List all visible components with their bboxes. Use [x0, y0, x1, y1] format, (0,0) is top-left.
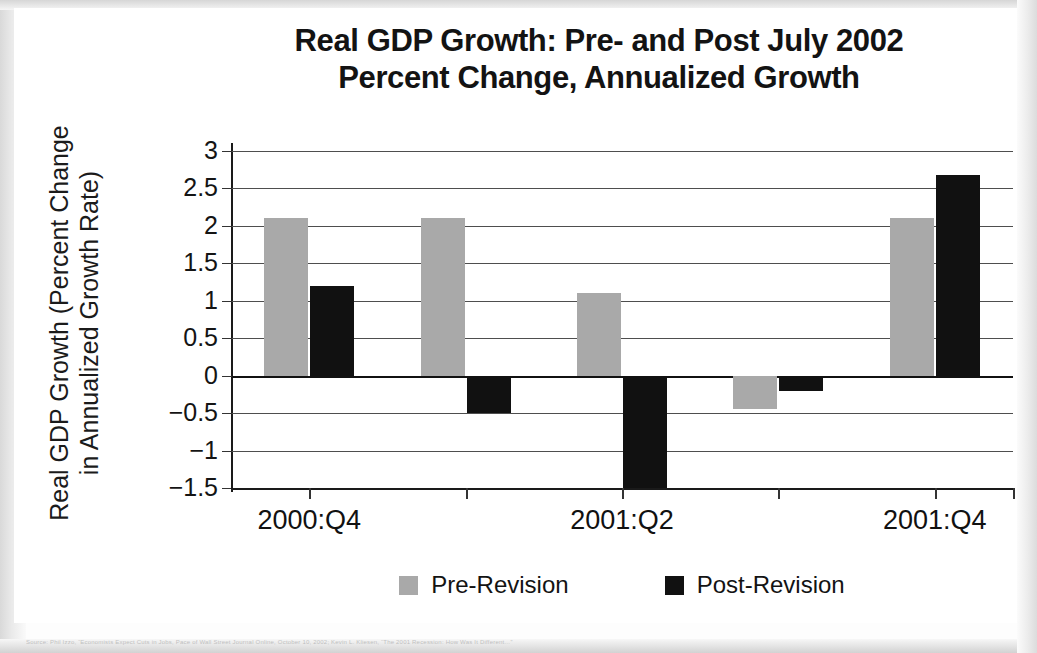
legend-item-post-revision: Post-Revision	[665, 571, 845, 599]
x-axis-tick-label-2000-Q4: 2000:Q4	[257, 505, 361, 536]
y-axis-tick-label: −1.5	[122, 473, 218, 502]
y-axis-tick	[222, 338, 232, 339]
x-axis-tick	[935, 488, 937, 499]
y-axis-label-line2: in Annualized Growth Rate)	[74, 113, 104, 533]
y-axis-tick	[222, 263, 232, 264]
y-axis-tick-label: 3	[122, 136, 218, 165]
x-axis-tick-label-2001-Q4: 2001:Q4	[883, 505, 987, 536]
y-axis-tick	[222, 188, 232, 189]
bar-pre-2001-Q3	[733, 376, 777, 410]
bar-post-2001-Q2	[623, 376, 667, 488]
legend-swatch-post-revision	[665, 576, 684, 595]
chart-legend: Pre-Revision Post-Revision	[231, 568, 1013, 602]
gdp-growth-bar-chart: Real GDP Growth: Pre- and Post July 2002…	[14, 8, 1022, 623]
y-axis-label: Real GDP Growth (Percent Change in Annua…	[44, 113, 104, 533]
x-axis-tick	[622, 488, 624, 499]
bar-post-2001-Q3	[779, 376, 823, 391]
legend-item-pre-revision: Pre-Revision	[399, 571, 568, 599]
bar-post-2001-Q1	[467, 376, 511, 413]
y-axis-tick-label: 0	[122, 361, 218, 390]
x-axis-end-tick	[1013, 488, 1015, 499]
bar-pre-2001-Q1	[421, 218, 465, 375]
y-axis-tick	[222, 451, 232, 452]
y-axis-tick-label: −0.5	[122, 398, 218, 427]
chart-title-line2: Percent Change, Annualized Growth	[184, 59, 1014, 96]
y-axis-tick-labels: 32.521.510.50−0.5−1−1.5	[122, 151, 218, 488]
chart-title-line1: Real GDP Growth: Pre- and Post July 2002	[295, 23, 904, 58]
legend-swatch-pre-revision	[399, 576, 418, 595]
x-axis-tick-label-2001-Q2: 2001:Q2	[570, 505, 674, 536]
bar-pre-2000-Q4	[264, 218, 308, 375]
gridline-neg0p5	[231, 413, 1013, 414]
gridline-neg1	[231, 451, 1013, 452]
y-axis-tick-label: 2	[122, 211, 218, 240]
y-axis-label-line1: Real GDP Growth (Percent Change	[44, 113, 74, 533]
bar-post-2000-Q4	[310, 286, 354, 376]
bar-pre-2001-Q4	[890, 218, 934, 375]
bar-post-2001-Q4	[936, 175, 980, 376]
plot-area	[231, 151, 1013, 488]
y-axis-tick-label: 0.5	[122, 323, 218, 352]
source-note: Source: Phil Izzo, “Economists Expect Cu…	[26, 639, 1011, 650]
y-axis-tick	[222, 151, 232, 152]
gridline-0	[231, 376, 1013, 378]
legend-label-pre-revision: Pre-Revision	[431, 571, 568, 599]
gridline-2p5	[231, 188, 1013, 189]
x-axis-tick	[466, 488, 468, 499]
y-axis-tick-label: −1	[122, 436, 218, 465]
legend-label-post-revision: Post-Revision	[697, 571, 845, 599]
y-axis-tick	[222, 413, 232, 414]
x-axis-tick	[309, 488, 311, 499]
y-axis-tick-label: 2.5	[122, 173, 218, 202]
y-axis-tick-label: 1.5	[122, 248, 218, 277]
chart-title: Real GDP Growth: Pre- and Post July 2002…	[184, 22, 1014, 96]
y-axis-tick	[222, 301, 232, 302]
y-axis-tick	[222, 226, 232, 227]
scanned-page: Real GDP Growth: Pre- and Post July 2002…	[0, 0, 1037, 653]
x-axis-tick	[778, 488, 780, 499]
y-axis-tick-label: 1	[122, 286, 218, 315]
bar-pre-2001-Q2	[577, 293, 621, 375]
gridline-3	[231, 151, 1013, 152]
y-axis-line	[231, 143, 233, 492]
y-axis-tick	[222, 376, 232, 377]
